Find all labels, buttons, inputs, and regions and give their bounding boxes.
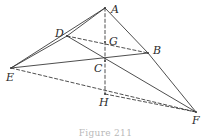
vertex-point-g — [104, 41, 106, 43]
vertex-label-d: D — [55, 28, 64, 39]
vertex-point-f — [195, 111, 197, 113]
vertex-point-a — [104, 7, 106, 9]
vertex-label-b: B — [153, 45, 161, 56]
edge-D-B — [67, 36, 148, 53]
geometry-diagram — [0, 0, 211, 139]
vertex-point-h — [104, 93, 106, 95]
figure-caption: Figure 211 — [0, 128, 211, 139]
edge-D-F — [67, 36, 196, 112]
vertex-point-d — [66, 35, 68, 37]
vertex-label-f: F — [192, 115, 200, 126]
vertex-label-a: A — [111, 4, 119, 15]
vertex-point-e — [10, 67, 12, 69]
vertex-label-e: E — [6, 72, 14, 83]
edge-A-D — [67, 8, 105, 36]
vertex-point-c — [104, 60, 106, 62]
edge-B-F — [148, 53, 196, 112]
vertex-label-c: C — [94, 63, 102, 74]
vertex-label-g: G — [109, 36, 118, 47]
geometry-figure: ADGBCEHF Figure 211 — [0, 0, 211, 139]
vertex-label-h: H — [99, 97, 109, 108]
vertex-point-b — [147, 52, 149, 54]
edge-H-F — [105, 94, 196, 112]
